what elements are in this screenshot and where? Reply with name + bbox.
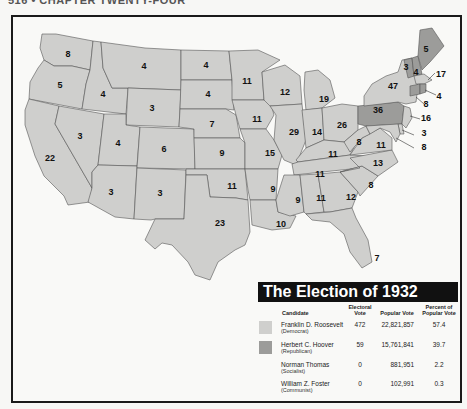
label-ri: 4 (436, 91, 441, 101)
label-ny: 47 (388, 81, 398, 91)
label-mt: 4 (141, 61, 146, 71)
state-nj (402, 106, 412, 128)
header-popular: Popular Vote (374, 304, 420, 319)
header-percent: Percent of Popular Vote (420, 304, 458, 319)
legend-title: The Election of 1932 (258, 282, 458, 302)
label-il: 29 (289, 127, 299, 137)
label-id: 4 (100, 89, 105, 99)
results-table: Candidate Electoral Vote Popular Vote Pe… (258, 304, 458, 397)
label-mo: 15 (265, 148, 275, 158)
candidate-name: William Z. Foster (281, 380, 330, 387)
table-row: William Z. Foster(Communist) 0 102,991 0… (258, 378, 458, 397)
candidate-name: Norman Thomas (281, 361, 329, 368)
label-de: 3 (421, 128, 426, 138)
label-ga: 12 (346, 192, 356, 202)
label-sd: 4 (205, 89, 210, 99)
label-in: 14 (312, 127, 322, 137)
state-mi (304, 70, 335, 110)
percent-vote: 39.7 (420, 339, 458, 359)
percent-vote: 0.3 (420, 378, 458, 397)
state-ct (410, 84, 420, 96)
label-or: 5 (57, 80, 62, 90)
popular-vote: 102,991 (374, 378, 420, 397)
label-nj: 16 (421, 113, 431, 123)
label-me: 5 (423, 44, 428, 54)
label-tx: 23 (215, 218, 225, 228)
label-va: 11 (376, 140, 386, 150)
label-ma: 17 (436, 69, 446, 79)
state-wi (262, 65, 302, 106)
label-vt: 3 (403, 62, 408, 72)
electoral-vote: 472 (346, 319, 374, 339)
label-md: 8 (421, 142, 426, 152)
table-header-row: Candidate Electoral Vote Popular Vote Pe… (258, 304, 458, 319)
popular-vote: 881,951 (374, 359, 420, 378)
republican-swatch (259, 341, 272, 354)
label-al: 11 (316, 193, 326, 203)
label-ut: 4 (115, 138, 120, 148)
header-electoral: Electoral Vote (346, 304, 374, 319)
label-az: 3 (108, 187, 113, 197)
label-ar: 9 (270, 184, 275, 194)
label-ms: 9 (295, 195, 300, 205)
label-nc: 13 (373, 158, 383, 168)
label-ct: 8 (423, 99, 428, 109)
label-ia: 11 (252, 114, 262, 124)
table-row: Norman Thomas(Socialist) 0 881,951 2.2 (258, 359, 458, 378)
label-tn: 11 (315, 169, 325, 179)
label-co: 6 (161, 144, 166, 154)
electoral-vote: 0 (346, 359, 374, 378)
popular-vote: 22,821,857 (374, 319, 420, 339)
popular-vote: 15,761,841 (374, 339, 420, 359)
table-row: Herbert C. Hoover(Republican) 59 15,761,… (258, 339, 458, 359)
table-row: Franklin D. Roosevelt(Democrat) 472 22,8… (258, 319, 458, 339)
label-sc: 8 (368, 180, 373, 190)
state-fl (306, 208, 372, 268)
label-nh: 4 (413, 67, 418, 77)
label-ca: 22 (45, 153, 55, 163)
percent-vote: 2.2 (420, 359, 458, 378)
candidate-party: (Communist) (281, 387, 345, 393)
label-pa: 36 (373, 105, 383, 115)
label-mn: 11 (242, 76, 252, 86)
percent-vote: 57.4 (420, 319, 458, 339)
label-ok: 11 (227, 181, 237, 191)
label-wy: 3 (149, 103, 154, 113)
swatch-header (258, 304, 280, 319)
label-wi: 12 (280, 87, 290, 97)
candidate-party: (Republican) (281, 348, 345, 354)
label-mi: 19 (319, 94, 329, 104)
label-wa: 8 (65, 49, 70, 59)
label-ks: 9 (219, 148, 224, 158)
democrat-swatch (259, 321, 272, 334)
candidate-name: Franklin D. Roosevelt (281, 321, 343, 328)
label-nd: 4 (203, 60, 208, 70)
label-fl: 7 (374, 253, 379, 263)
candidate-party: (Democrat) (281, 328, 345, 334)
label-nm: 3 (157, 188, 162, 198)
header-candidate: Candidate (280, 304, 346, 319)
label-wv: 8 (356, 137, 361, 147)
label-ne: 7 (209, 119, 214, 129)
candidate-party: (Socialist) (281, 368, 345, 374)
candidate-name: Herbert C. Hoover (281, 341, 334, 348)
label-nv: 3 (77, 131, 82, 141)
electoral-vote: 59 (346, 339, 374, 359)
label-oh: 26 (337, 120, 347, 130)
state-ri (420, 84, 426, 94)
label-la: 10 (276, 219, 286, 229)
electoral-vote: 0 (346, 378, 374, 397)
label-ky: 11 (328, 149, 338, 159)
state-me (418, 28, 444, 70)
election-legend: The Election of 1932 Candidate Electoral… (258, 282, 458, 397)
